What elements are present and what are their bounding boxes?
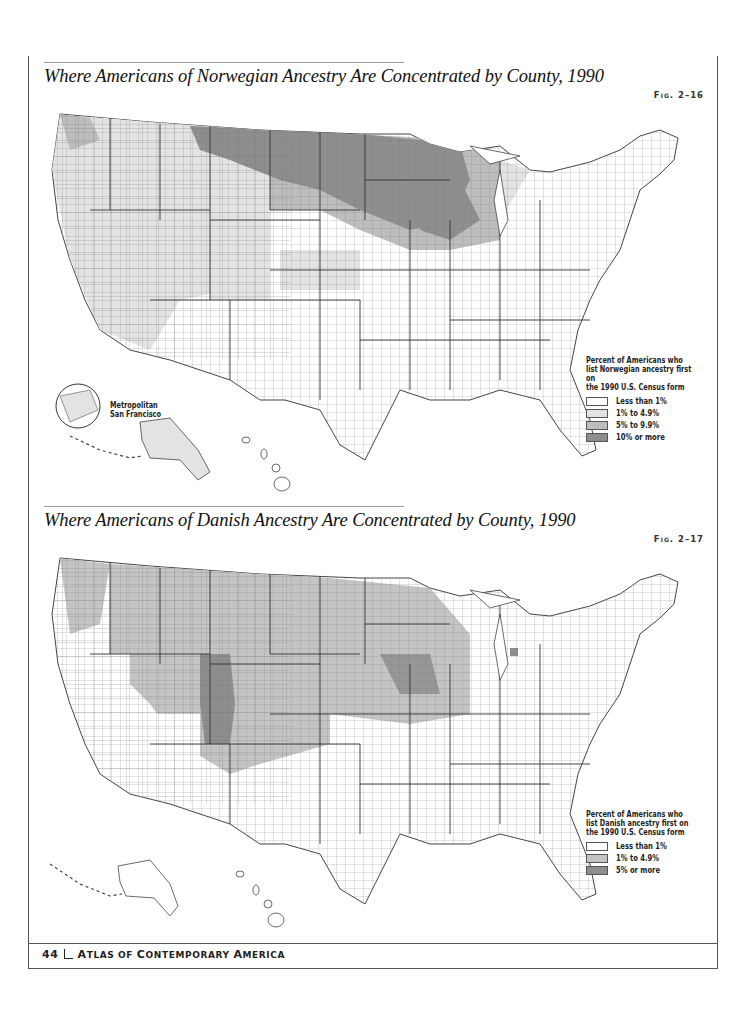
legend-swatch — [586, 433, 608, 442]
legend-swatch — [586, 421, 608, 430]
us-county-map-danish — [30, 544, 716, 944]
legend-item: 5% or more — [586, 864, 716, 876]
figure-norwegian: Where Americans of Norwegian Ancestry Ar… — [30, 56, 716, 496]
legend-swatch — [586, 866, 608, 875]
legend-swatch — [586, 854, 608, 863]
legend-danish: Percent of Americans who list Danish anc… — [586, 810, 716, 876]
figure-title: Where Americans of Norwegian Ancestry Ar… — [44, 66, 604, 87]
title-rule — [44, 506, 404, 507]
legend-item: 1% to 4.9% — [586, 407, 716, 419]
running-title: ATLAS OF CONTEMPORARY AMERICA — [78, 948, 286, 961]
legend-swatch — [586, 409, 608, 418]
legend-item: 10% or more — [586, 431, 716, 443]
figure-danish: Where Americans of Danish Ancestry Are C… — [30, 500, 716, 940]
inset-label-san-francisco: Metropolitan San Francisco — [110, 401, 161, 419]
legend-title: Percent of Americans who list Danish anc… — [586, 810, 693, 837]
title-rule — [44, 62, 404, 63]
legend-item: Less than 1% — [586, 840, 716, 852]
legend-swatch — [586, 842, 608, 851]
page-footer: 44ATLAS OF CONTEMPORARY AMERICA — [42, 948, 285, 961]
legend-item: Less than 1% — [586, 395, 716, 407]
box-bullet-icon — [64, 949, 73, 959]
figure-number: Fig. 2–17 — [654, 534, 704, 544]
legend-swatch — [586, 397, 608, 406]
figure-number: Fig. 2–16 — [654, 90, 704, 100]
figure-title: Where Americans of Danish Ancestry Are C… — [44, 510, 575, 531]
legend-title: Percent of Americans who list Norwegian … — [586, 356, 693, 392]
page-number: 44 — [42, 948, 59, 961]
legend-item: 5% to 9.9% — [586, 419, 716, 431]
legend-item: 1% to 4.9% — [586, 852, 716, 864]
legend-norwegian: Percent of Americans who list Norwegian … — [586, 356, 716, 443]
